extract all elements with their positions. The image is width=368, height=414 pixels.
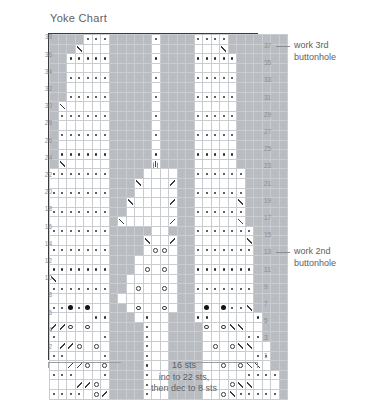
chart-cell[interactable] — [169, 73, 178, 83]
chart-cell[interactable] — [228, 207, 237, 217]
chart-cell[interactable] — [254, 274, 263, 284]
chart-cell[interactable] — [186, 246, 195, 256]
chart-cell[interactable] — [67, 159, 76, 169]
chart-cell[interactable] — [67, 246, 76, 256]
chart-cell[interactable] — [67, 322, 76, 332]
chart-cell[interactable] — [118, 140, 127, 150]
chart-cell[interactable] — [143, 236, 152, 246]
chart-cell[interactable] — [245, 236, 254, 246]
chart-cell[interactable] — [109, 92, 118, 102]
chart-cell[interactable] — [143, 294, 152, 304]
chart-cell[interactable] — [203, 188, 212, 198]
chart-cell[interactable] — [245, 313, 254, 323]
chart-cell[interactable] — [211, 35, 220, 45]
chart-cell[interactable] — [135, 198, 144, 208]
chart-cell[interactable] — [228, 111, 237, 121]
chart-cell[interactable] — [75, 73, 84, 83]
chart-cell[interactable] — [169, 44, 178, 54]
chart-cell[interactable] — [92, 130, 101, 140]
chart-cell[interactable] — [84, 188, 93, 198]
chart-cell[interactable] — [177, 102, 186, 112]
chart-cell[interactable] — [160, 54, 169, 64]
chart-cell[interactable] — [228, 313, 237, 323]
chart-cell[interactable] — [135, 54, 144, 64]
chart-cell[interactable] — [245, 246, 254, 256]
chart-cell[interactable] — [211, 73, 220, 83]
chart-cell[interactable] — [237, 169, 246, 179]
chart-cell[interactable] — [135, 226, 144, 236]
chart-cell[interactable] — [58, 198, 67, 208]
chart-cell[interactable] — [203, 303, 212, 313]
chart-cell[interactable] — [186, 322, 195, 332]
chart-cell[interactable] — [254, 169, 263, 179]
chart-cell[interactable] — [211, 82, 220, 92]
chart-cell[interactable] — [118, 159, 127, 169]
chart-cell[interactable] — [135, 274, 144, 284]
chart-cell[interactable] — [152, 274, 161, 284]
chart-cell[interactable] — [228, 169, 237, 179]
chart-cell[interactable] — [160, 111, 169, 121]
chart-cell[interactable] — [143, 226, 152, 236]
chart-cell[interactable] — [237, 332, 246, 342]
chart-cell[interactable] — [186, 35, 195, 45]
chart-cell[interactable] — [186, 198, 195, 208]
chart-cell[interactable] — [126, 130, 135, 140]
chart-cell[interactable] — [186, 226, 195, 236]
chart-cell[interactable] — [160, 198, 169, 208]
chart-cell[interactable] — [186, 265, 195, 275]
chart-cell[interactable] — [126, 294, 135, 304]
chart-cell[interactable] — [237, 121, 246, 131]
chart-cell[interactable] — [152, 313, 161, 323]
chart-cell[interactable] — [177, 54, 186, 64]
chart-cell[interactable] — [92, 35, 101, 45]
chart-cell[interactable] — [220, 198, 229, 208]
chart-cell[interactable] — [135, 111, 144, 121]
chart-cell[interactable] — [101, 246, 110, 256]
chart-cell[interactable] — [118, 198, 127, 208]
chart-cell[interactable] — [220, 294, 229, 304]
chart-cell[interactable] — [186, 130, 195, 140]
chart-cell[interactable] — [152, 102, 161, 112]
chart-cell[interactable] — [58, 226, 67, 236]
chart-cell[interactable] — [237, 73, 246, 83]
chart-cell[interactable] — [177, 274, 186, 284]
chart-cell[interactable] — [92, 188, 101, 198]
chart-cell[interactable] — [279, 255, 288, 265]
chart-cell[interactable] — [254, 121, 263, 131]
chart-cell[interactable] — [194, 303, 203, 313]
chart-cell[interactable] — [126, 274, 135, 284]
chart-cell[interactable] — [228, 303, 237, 313]
chart-cell[interactable] — [211, 255, 220, 265]
chart-cell[interactable] — [194, 265, 203, 275]
chart-cell[interactable] — [109, 342, 118, 352]
chart-cell[interactable] — [254, 178, 263, 188]
chart-cell[interactable] — [152, 54, 161, 64]
chart-cell[interactable] — [109, 169, 118, 179]
chart-cell[interactable] — [101, 82, 110, 92]
chart-cell[interactable] — [169, 111, 178, 121]
chart-cell[interactable] — [169, 236, 178, 246]
chart-cell[interactable] — [143, 198, 152, 208]
chart-cell[interactable] — [177, 342, 186, 352]
chart-cell[interactable] — [152, 322, 161, 332]
chart-cell[interactable] — [245, 44, 254, 54]
chart-cell[interactable] — [58, 178, 67, 188]
chart-cell[interactable] — [67, 102, 76, 112]
chart-cell[interactable] — [169, 178, 178, 188]
chart-cell[interactable] — [237, 313, 246, 323]
chart-cell[interactable] — [237, 178, 246, 188]
chart-cell[interactable] — [160, 140, 169, 150]
chart-cell[interactable] — [75, 82, 84, 92]
chart-cell[interactable] — [118, 265, 127, 275]
chart-cell[interactable] — [143, 82, 152, 92]
chart-cell[interactable] — [160, 217, 169, 227]
chart-cell[interactable] — [169, 121, 178, 131]
chart-cell[interactable] — [101, 217, 110, 227]
chart-cell[interactable] — [160, 322, 169, 332]
chart-cell[interactable] — [245, 102, 254, 112]
chart-cell[interactable] — [160, 274, 169, 284]
chart-cell[interactable] — [92, 92, 101, 102]
chart-cell[interactable] — [101, 63, 110, 73]
chart-cell[interactable] — [254, 342, 263, 352]
chart-cell[interactable] — [67, 332, 76, 342]
